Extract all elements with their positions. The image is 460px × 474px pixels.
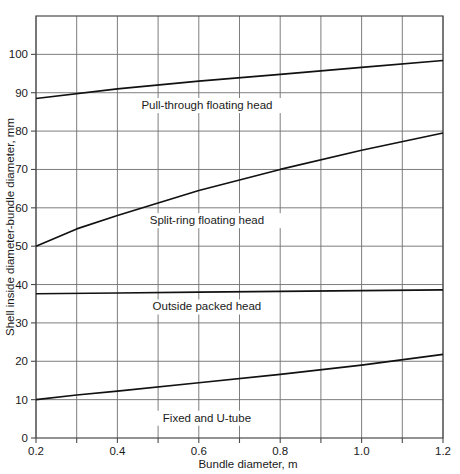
y-tick-label-80: 80	[15, 125, 28, 137]
x-tick-label-0.8: 0.8	[272, 445, 288, 457]
y-tick-label-50: 50	[15, 240, 28, 252]
y-tick-label-100: 100	[9, 48, 28, 60]
y-tick-label-90: 90	[15, 87, 28, 99]
y-tick-label-70: 70	[15, 163, 28, 175]
y-axis-title: Shell inside diameter-bundle diameter, m…	[4, 118, 16, 336]
y-tick-label-10: 10	[15, 394, 28, 406]
x-tick-label-1.2: 1.2	[435, 445, 451, 457]
annotation-pull-through-floating-head: Pull-through floating head	[141, 99, 272, 111]
x-axis-title: Bundle diameter, m	[198, 458, 297, 470]
y-tick-label-40: 40	[15, 279, 28, 291]
x-tick-label-1.0: 1.0	[354, 445, 370, 457]
x-tick-label-0.6: 0.6	[191, 445, 207, 457]
x-tick-label-0.4: 0.4	[109, 445, 126, 457]
chart-figure: Pull-through floating headSplit-ring flo…	[0, 0, 460, 474]
chart-background	[0, 0, 460, 474]
annotation-outside-packed-head: Outside packed head	[153, 300, 262, 312]
y-tick-label-0: 0	[22, 432, 28, 444]
y-tick-label-20: 20	[15, 355, 28, 367]
annotation-split-ring-floating-head: Split-ring floating head	[150, 214, 264, 226]
x-tick-label-0.2: 0.2	[28, 445, 44, 457]
shell-bundle-diameter-clearance-chart: Pull-through floating headSplit-ring flo…	[0, 0, 460, 474]
y-tick-label-30: 30	[15, 317, 28, 329]
annotation-fixed-and-u-tube: Fixed and U-tube	[163, 412, 251, 424]
y-tick-label-60: 60	[15, 202, 28, 214]
